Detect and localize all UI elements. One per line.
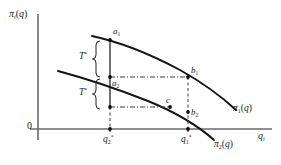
curve-pi1 [92, 36, 236, 110]
point-label-b1: b1 [191, 66, 198, 76]
point-label-b2: b2 [191, 108, 198, 118]
x-tick-label-q2star: q2* [103, 135, 114, 146]
point-marker-a1 [108, 38, 112, 42]
point-marker-lower [108, 105, 112, 109]
point-marker-b1 [186, 75, 190, 79]
x-axis-label: qi [258, 131, 265, 142]
point-label-a1: a1 [113, 27, 120, 37]
point-marker-q1star [186, 127, 190, 131]
point-marker-q2star [108, 127, 112, 131]
brace-label-t-star-upper: T* [79, 52, 87, 62]
point-label-a2: a2 [112, 79, 119, 89]
curve-label-pi2: π2(q) [214, 140, 233, 151]
curve-label-pi1: π1(q) [233, 104, 252, 115]
origin-label: 0 [27, 121, 32, 131]
brace-label-t-star-lower: T* [79, 88, 87, 98]
brace-upper [93, 41, 101, 77]
point-marker-b2 [186, 110, 190, 114]
figure-container: πi(q) qi 0 a1 a2 b1 b2 c T* T* π1(q) π2(… [0, 0, 281, 165]
y-axis-label: πi(q) [9, 9, 27, 20]
point-label-c: c [166, 96, 170, 105]
point-marker-c [168, 105, 172, 109]
x-tick-label-q1star: q1* [181, 135, 192, 146]
profit-curves-plot [0, 0, 281, 165]
